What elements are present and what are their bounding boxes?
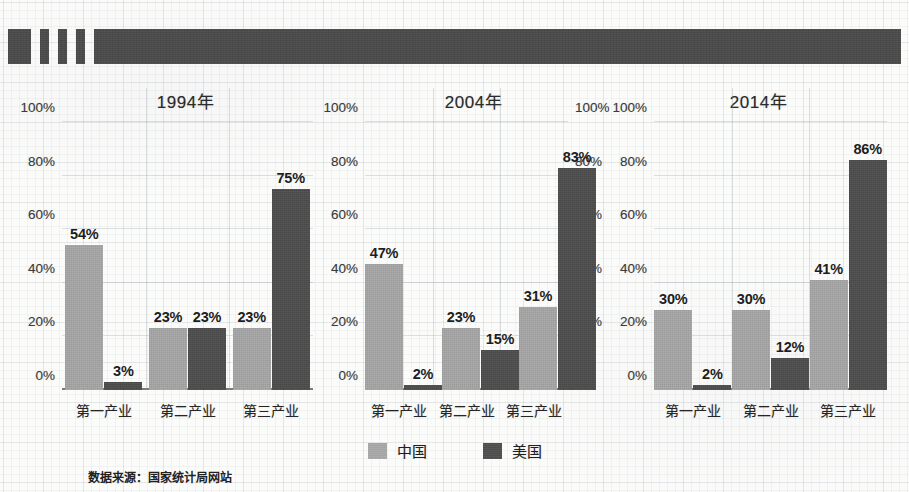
bar-group: 31%83% (519, 122, 596, 390)
x-axis-category-label: 第二产业 (732, 400, 810, 420)
x-axis-labels: 第一产业第二产业第三产业 (62, 400, 313, 420)
bar-value-label: 30% (659, 291, 687, 307)
bar[interactable]: 75% (272, 189, 310, 390)
legend-swatch-icon (368, 443, 387, 459)
x-axis-labels: 第一产业第二产业第三产业 (365, 400, 568, 420)
bar-slot: 23% (233, 122, 271, 390)
bar-value-label: 3% (113, 363, 134, 379)
bar-slot: 2% (404, 122, 442, 390)
y-axis-tick-label: 100% (20, 100, 55, 115)
y-axis-tick-label: 0% (35, 368, 55, 383)
x-axis-labels: 第一产业第二产业第三产业 (654, 400, 887, 420)
bar-value-label: 30% (737, 291, 765, 307)
bar[interactable]: 47% (365, 264, 403, 390)
y-axis-tick-label: 20% (620, 314, 647, 329)
bar-slot: 47% (365, 122, 403, 390)
bar[interactable]: 54% (65, 245, 103, 390)
bar-groups: 30%2%30%12%41%86% (654, 122, 887, 390)
x-axis-category-label: 第二产业 (146, 400, 230, 420)
legend-item-cn[interactable]: 中国 (368, 440, 427, 461)
header-band (8, 29, 901, 64)
bar[interactable]: 31% (519, 307, 557, 390)
plot-area-1994: 0%20%40%60%80%100%54%3%23%23%23%75%第一产业第… (62, 122, 313, 390)
x-axis-category-label: 第一产业 (654, 400, 732, 420)
bar-value-label: 23% (447, 309, 475, 325)
bar[interactable]: 30% (654, 310, 692, 390)
bar-group: 30%2% (654, 122, 732, 390)
header-band-bar-1 (40, 29, 49, 64)
bar-value-label: 12% (776, 339, 804, 355)
bar-slot: 2% (693, 122, 731, 390)
bar-slot: 12% (771, 122, 809, 390)
bar[interactable]: 83% (558, 168, 596, 390)
chart-title-2004: 2004年 (319, 88, 602, 113)
bar-value-label: 23% (193, 309, 221, 325)
bar-value-label: 23% (154, 309, 182, 325)
bar-value-label: 23% (237, 309, 265, 325)
y-axis-tick-label: 80% (28, 153, 55, 168)
legend-label: 中国 (397, 440, 427, 461)
y-axis-tick-label: 20% (331, 314, 358, 329)
bar-groups: 47%2%23%15%31%83% (365, 122, 568, 390)
bar-slot: 23% (442, 122, 480, 390)
header-band-gap-1 (31, 29, 40, 64)
source-note: 数据来源：国家统计局网站 (88, 468, 232, 485)
bar-slot: 54% (65, 122, 103, 390)
bar-value-label: 86% (853, 141, 881, 157)
chart-page: 1994年 0%20%40%60%80%100%54%3%23%23%23%75… (0, 0, 909, 492)
bar-value-label: 2% (413, 366, 434, 382)
header-band-gap-2 (49, 29, 58, 64)
y-axis-tick-label: 40% (331, 260, 358, 275)
bar[interactable]: 23% (233, 328, 271, 390)
bar-slot: 86% (849, 122, 887, 390)
bar-value-label: 47% (370, 245, 398, 261)
x-axis-category-label: 第一产业 (365, 400, 433, 420)
bar[interactable]: 41% (810, 280, 848, 390)
bar-slot: 75% (272, 122, 310, 390)
y-axis-tick-label: 80% (620, 153, 647, 168)
chart-panel-1994: 1994年 0%20%40%60%80%100%54%3%23%23%23%75… (14, 88, 319, 408)
bar-value-label: 41% (814, 261, 842, 277)
bar-slot: 41% (810, 122, 848, 390)
bar-groups: 54%3%23%23%23%75% (62, 122, 313, 390)
bar-slot: 15% (481, 122, 519, 390)
bar[interactable]: 15% (481, 350, 519, 390)
y-axis-tick-label: 60% (620, 207, 647, 222)
legend-label: 美国 (512, 440, 542, 461)
bar-group: 23%75% (229, 122, 313, 390)
bar-value-label: 31% (524, 288, 552, 304)
bar[interactable]: 86% (849, 160, 887, 390)
bar-group: 41%86% (809, 122, 887, 390)
y-axis-tick-label: 80% (331, 153, 358, 168)
bar-slot: 83% (558, 122, 596, 390)
chart-legend: 中国美国 (0, 440, 909, 461)
y-axis-tick-label: 20% (28, 314, 55, 329)
header-band-long-bar (94, 29, 901, 64)
bar-slot: 23% (188, 122, 226, 390)
y-axis-tick-label: 100% (612, 100, 647, 115)
bar[interactable]: 2% (404, 385, 442, 390)
bar-value-label: 75% (276, 170, 304, 186)
x-axis-category-label: 第二产业 (433, 400, 501, 420)
bar[interactable]: 12% (771, 358, 809, 390)
plot-area-2014: 0%20%40%60%80%100%30%2%30%12%41%86%第一产业第… (654, 122, 887, 390)
header-band-gap-4 (85, 29, 94, 64)
bar[interactable]: 23% (442, 328, 480, 390)
bar-group: 23%23% (146, 122, 230, 390)
y-axis-tick-label: 60% (331, 207, 358, 222)
bar-slot: 3% (104, 122, 142, 390)
bar[interactable]: 30% (732, 310, 770, 390)
x-axis-category-label: 第一产业 (62, 400, 146, 420)
bar-slot: 31% (519, 122, 557, 390)
bar-group: 54%3% (62, 122, 146, 390)
bar[interactable]: 23% (188, 328, 226, 390)
x-axis-category-label: 第三产业 (809, 400, 887, 420)
bar[interactable]: 2% (693, 385, 731, 390)
bar[interactable]: 23% (149, 328, 187, 390)
bar-group: 30%12% (732, 122, 810, 390)
bar-group: 23%15% (442, 122, 519, 390)
y-axis-tick-label: 0% (627, 368, 647, 383)
legend-swatch-icon (483, 443, 502, 459)
bar[interactable]: 3% (104, 382, 142, 390)
legend-item-us[interactable]: 美国 (483, 440, 542, 461)
